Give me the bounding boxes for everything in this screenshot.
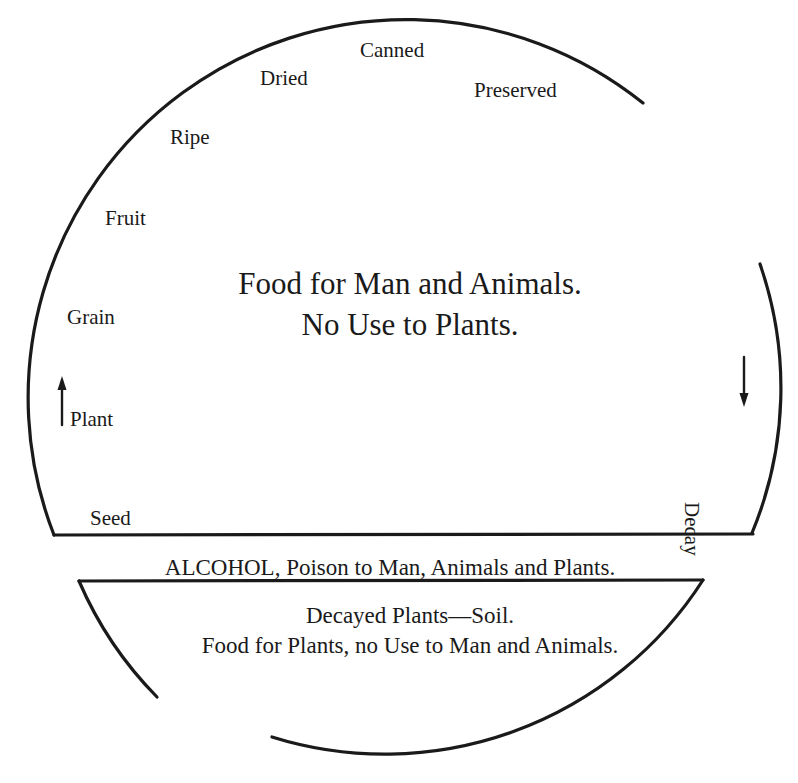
- upper-region-line-1: Food for Man and Animals.: [110, 268, 710, 299]
- alcohol-band-text: ALCOHOL, Poison to Man, Animals and Plan…: [90, 556, 690, 579]
- lower-region-line-1: Decayed Plants—Soil.: [110, 604, 710, 627]
- arrow-down-head: [740, 393, 749, 407]
- lower-region-line-2: Food for Plants, no Use to Man and Anima…: [110, 634, 710, 657]
- stage-label-dried: Dried: [260, 68, 308, 89]
- food-cycle-diagram: Canned Dried Preserved Ripe Fruit Grain …: [0, 0, 798, 783]
- stage-label-preserved: Preserved: [474, 80, 557, 101]
- stage-label-canned: Canned: [360, 40, 424, 61]
- stage-label-decay: Decay: [681, 502, 702, 556]
- diagram-lines: [0, 0, 798, 783]
- upper-divider-line: [54, 534, 753, 535]
- stage-label-seed: Seed: [90, 508, 131, 529]
- stage-label-ripe: Ripe: [170, 127, 210, 148]
- stage-label-grain: Grain: [67, 307, 115, 328]
- lower-divider-line: [79, 580, 703, 581]
- right-circle-arc: [752, 264, 781, 533]
- stage-label-fruit: Fruit: [105, 208, 146, 229]
- upper-region-line-2: No Use to Plants.: [110, 309, 710, 340]
- stage-label-plant: Plant: [70, 409, 113, 430]
- arrow-up-head: [58, 376, 67, 390]
